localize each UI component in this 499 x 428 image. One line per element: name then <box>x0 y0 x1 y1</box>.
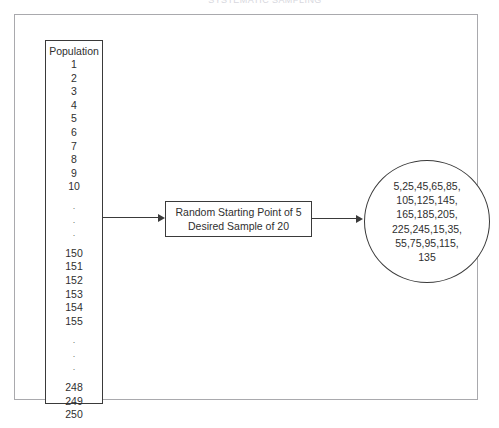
population-list-item: 10 <box>46 180 102 194</box>
population-list: 12345678910...150151152153154155...24824… <box>46 58 102 422</box>
population-list-item: 153 <box>46 288 102 302</box>
population-ellipsis-dot: . <box>46 334 102 348</box>
population-list-item: 1 <box>46 58 102 72</box>
population-list-item: 152 <box>46 274 102 288</box>
result-line: 225,245,15,35, <box>392 222 462 236</box>
population-ellipsis-dot: . <box>46 227 102 241</box>
population-box: Population 12345678910...150151152153154… <box>45 40 103 404</box>
population-list-item: 2 <box>46 72 102 86</box>
diagram-frame: Population 12345678910...150151152153154… <box>14 14 478 400</box>
population-list-item: 250 <box>46 408 102 422</box>
arrow-shaft <box>103 217 159 218</box>
population-list-item: 5 <box>46 112 102 126</box>
population-ellipsis-dot: . <box>46 200 102 214</box>
population-list-item: 8 <box>46 153 102 167</box>
population-list-item: 150 <box>46 247 102 261</box>
process-box: Random Starting Point of 5 Desired Sampl… <box>165 201 312 237</box>
population-list-item: 151 <box>46 260 102 274</box>
result-ellipse: 5,25,45,65,85,105,125,145,165,185,205,22… <box>364 160 490 283</box>
systematic-sampling-diagram: SYSTEMATIC SAMPLING Population 123456789… <box>0 0 499 428</box>
process-line-2: Desired Sample of 20 <box>188 219 289 233</box>
population-list-item: 9 <box>46 167 102 181</box>
process-line-1: Random Starting Point of 5 <box>175 205 301 219</box>
arrow-right-icon-population-to-process <box>103 213 165 223</box>
population-ellipsis-dot: . <box>46 348 102 362</box>
result-line: 5,25,45,65,85, <box>393 179 460 193</box>
population-ellipsis-dot: . <box>46 214 102 228</box>
population-list-item: 249 <box>46 395 102 409</box>
result-line: 135 <box>418 250 436 264</box>
arrow-shaft <box>312 218 357 219</box>
result-line: 105,125,145, <box>396 193 457 207</box>
population-title: Population <box>46 44 102 58</box>
population-list-item: 7 <box>46 140 102 154</box>
arrow-head <box>158 214 165 222</box>
arrow-right-icon-process-to-result <box>312 214 364 224</box>
population-list-item: 6 <box>46 126 102 140</box>
result-line: 165,185,205, <box>396 207 457 221</box>
population-list-item: 4 <box>46 99 102 113</box>
arrow-head <box>356 215 363 223</box>
population-ellipsis-dot: . <box>46 361 102 375</box>
top-caption: SYSTEMATIC SAMPLING <box>150 0 380 5</box>
population-list-item: 3 <box>46 85 102 99</box>
population-list-item: 154 <box>46 301 102 315</box>
result-line: 55,75,95,115, <box>395 236 458 250</box>
population-list-item: 248 <box>46 381 102 395</box>
population-list-item: 155 <box>46 315 102 329</box>
